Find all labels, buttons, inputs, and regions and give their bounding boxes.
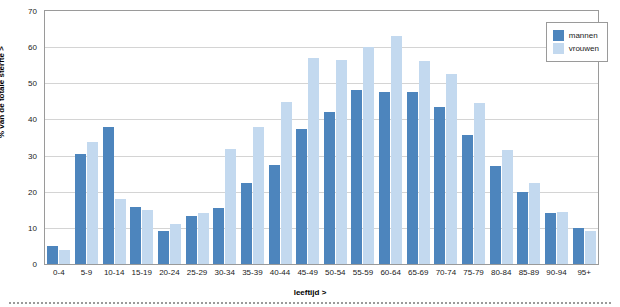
legend-label-vrouwen: vrouwen <box>569 44 599 53</box>
x-axis-tick-label: 65-69 <box>404 268 432 277</box>
legend-item-vrouwen: vrouwen <box>553 43 599 54</box>
y-axis-tick-label: 60 <box>28 43 37 52</box>
bar-mannen-45-49 <box>296 129 307 264</box>
bar-vrouwen-80-84 <box>502 150 513 264</box>
y-axis-tick-label: 70 <box>28 7 37 16</box>
bar-vrouwen-35-39 <box>253 127 264 264</box>
decorative-dotted-rule <box>8 302 612 304</box>
bar-mannen-35-39 <box>241 183 252 264</box>
bar-mannen-90-94 <box>545 213 556 264</box>
x-axis-tick-label: 95+ <box>570 268 598 277</box>
legend-swatch-icon-mannen <box>553 30 564 41</box>
bar-group <box>377 11 405 264</box>
bar-mannen-25-29 <box>186 216 197 264</box>
bar-group <box>239 11 267 264</box>
bar-mannen-0-4 <box>47 246 58 264</box>
x-axis-tick-label: 80-84 <box>487 268 515 277</box>
y-axis-tick-label: 30 <box>28 151 37 160</box>
x-axis-tick-label: 15-19 <box>128 268 156 277</box>
x-axis-tick-label: 40-44 <box>266 268 294 277</box>
bar-mannen-95+ <box>573 228 584 264</box>
bar-vrouwen-25-29 <box>198 213 209 264</box>
y-axis-tick-label: 40 <box>28 115 37 124</box>
x-axis-tick-label: 60-64 <box>377 268 405 277</box>
bar-group <box>128 11 156 264</box>
x-axis-tick-labels: 0-45-910-1415-1920-2425-2930-3435-3940-4… <box>45 268 598 290</box>
y-axis-tick-label: 0 <box>33 260 37 269</box>
x-axis-tick-label: 90-94 <box>543 268 571 277</box>
bar-group <box>156 11 184 264</box>
bar-vrouwen-90-94 <box>557 212 568 264</box>
x-axis-tick-label: 10-14 <box>100 268 128 277</box>
bar-vrouwen-45-49 <box>308 58 319 264</box>
bar-vrouwen-30-34 <box>225 149 236 264</box>
y-axis-title: % van de totale sterfte > <box>0 0 6 138</box>
x-axis-tick-label: 85-89 <box>515 268 543 277</box>
bar-vrouwen-5-9 <box>87 142 98 264</box>
bar-mannen-10-14 <box>103 127 114 264</box>
bar-group <box>211 11 239 264</box>
bar-group <box>183 11 211 264</box>
bar-group <box>487 11 515 264</box>
x-axis-tick-label: 55-59 <box>349 268 377 277</box>
bar-group <box>515 11 543 264</box>
bar-vrouwen-60-64 <box>391 36 402 264</box>
bar-group <box>45 11 73 264</box>
bar-vrouwen-55-59 <box>363 47 374 264</box>
y-axis-tick-label: 50 <box>28 79 37 88</box>
bar-group <box>349 11 377 264</box>
bar-mannen-15-19 <box>130 207 141 264</box>
bar-mannen-75-79 <box>462 135 473 264</box>
bar-vrouwen-65-69 <box>419 61 430 264</box>
bar-vrouwen-15-19 <box>142 210 153 264</box>
x-axis-tick-label: 50-54 <box>322 268 350 277</box>
bar-mannen-80-84 <box>490 166 501 264</box>
bar-vrouwen-40-44 <box>281 102 292 264</box>
legend-label-mannen: mannen <box>569 31 598 40</box>
y-axis-tick-labels: 010203040506070 <box>0 10 40 265</box>
bar-vrouwen-50-54 <box>336 60 347 264</box>
bar-group <box>404 11 432 264</box>
bar-vrouwen-85-89 <box>529 183 540 264</box>
x-axis-tick-label: 5-9 <box>73 268 101 277</box>
x-axis-tick-label: 35-39 <box>239 268 267 277</box>
bar-group <box>294 11 322 264</box>
bar-mannen-5-9 <box>75 154 86 264</box>
bar-mannen-20-24 <box>158 231 169 264</box>
bar-vrouwen-10-14 <box>115 199 126 264</box>
bar-group <box>432 11 460 264</box>
bar-vrouwen-0-4 <box>59 250 70 264</box>
chart-container: 010203040506070 % van de totale sterfte … <box>0 0 620 307</box>
legend-swatch-icon-vrouwen <box>553 43 564 54</box>
y-axis-tick-label: 20 <box>28 187 37 196</box>
bar-group <box>100 11 128 264</box>
x-axis-tick-label: 70-74 <box>432 268 460 277</box>
bar-vrouwen-95+ <box>585 231 596 264</box>
bar-group <box>460 11 488 264</box>
bar-mannen-85-89 <box>517 192 528 264</box>
bar-group <box>322 11 350 264</box>
legend: mannen vrouwen <box>546 22 608 62</box>
x-axis-tick-label: 20-24 <box>156 268 184 277</box>
bar-mannen-50-54 <box>324 112 335 264</box>
bar-mannen-65-69 <box>407 92 418 264</box>
bar-group <box>266 11 294 264</box>
x-axis-tick-label: 25-29 <box>183 268 211 277</box>
x-axis-tick-label: 30-34 <box>211 268 239 277</box>
bars-group <box>45 11 598 264</box>
x-axis-tick-label: 45-49 <box>294 268 322 277</box>
y-axis-tick-label: 10 <box>28 223 37 232</box>
bar-vrouwen-75-79 <box>474 103 485 264</box>
bar-mannen-60-64 <box>379 92 390 264</box>
bar-mannen-55-59 <box>351 90 362 264</box>
bar-vrouwen-70-74 <box>446 74 457 264</box>
bar-mannen-30-34 <box>213 208 224 264</box>
bar-group <box>73 11 101 264</box>
bar-mannen-70-74 <box>434 107 445 264</box>
x-axis-title: leeftijd > <box>0 288 620 297</box>
x-axis-tick-label: 75-79 <box>460 268 488 277</box>
bar-vrouwen-20-24 <box>170 224 181 264</box>
x-axis-tick-label: 0-4 <box>45 268 73 277</box>
legend-item-mannen: mannen <box>553 30 599 41</box>
bar-mannen-40-44 <box>269 165 280 264</box>
